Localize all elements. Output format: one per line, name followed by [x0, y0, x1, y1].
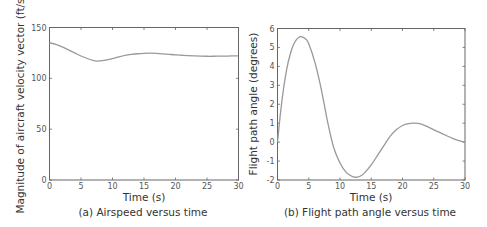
- y-tick-label: 50: [36, 125, 46, 134]
- figure: 051015202530 050100150 Time (s) Magnitud…: [0, 0, 487, 227]
- x-tick-label: 20: [170, 182, 180, 191]
- flight-path-angle-line: [278, 36, 466, 177]
- x-ticks: 051015202530: [275, 29, 470, 192]
- x-tick-label: 0: [47, 182, 52, 191]
- y-tick-label: 2: [269, 100, 274, 109]
- plot-frame: [278, 29, 466, 181]
- y-tick-label: 1: [269, 119, 274, 128]
- y-axis-label: Magnitude of aircraft velocity vector (f…: [14, 0, 26, 214]
- x-ticks: 051015202530: [47, 28, 244, 192]
- x-tick-label: 25: [429, 182, 439, 191]
- x-tick-label: 10: [107, 182, 117, 191]
- x-tick-label: 15: [366, 182, 376, 191]
- x-tick-label: 10: [335, 182, 345, 191]
- y-tick-label: 5: [269, 43, 274, 52]
- y-ticks: 050100150: [31, 24, 238, 186]
- x-axis-label: Time (s): [122, 191, 166, 203]
- y-axis-label: Flight path angle (degrees): [247, 33, 259, 176]
- y-tick-label: 100: [31, 74, 46, 83]
- x-tick-label: 30: [460, 182, 470, 191]
- y-tick-label: -1: [267, 157, 275, 166]
- x-tick-label: 30: [233, 182, 243, 191]
- flight-path-angle-chart: 051015202530 -2-10123456 Time (s) Flight…: [247, 25, 470, 219]
- y-tick-label: 150: [31, 24, 46, 33]
- x-tick-label: 25: [202, 182, 212, 191]
- y-tick-label: 4: [269, 62, 274, 71]
- y-tick-label: 3: [269, 81, 274, 90]
- x-axis-label: Time (s): [349, 191, 393, 203]
- x-tick-label: 20: [397, 182, 407, 191]
- x-tick-label: 5: [306, 182, 311, 191]
- plot-frame: [50, 28, 239, 181]
- caption: (a) Airspeed versus time: [78, 206, 207, 218]
- airspeed-chart: 051015202530 050100150 Time (s) Magnitud…: [14, 0, 244, 218]
- y-tick-label: 0: [41, 176, 46, 185]
- y-tick-label: -2: [267, 176, 275, 185]
- y-ticks: -2-10123456: [267, 25, 465, 186]
- caption: (b) Flight path angle versus time: [284, 206, 456, 218]
- x-tick-label: 5: [78, 182, 83, 191]
- x-tick-label: 15: [139, 182, 149, 191]
- x-tick-label: 0: [275, 182, 280, 191]
- airspeed-line: [50, 43, 239, 61]
- y-tick-label: 6: [269, 25, 274, 34]
- y-tick-label: 0: [269, 138, 274, 147]
